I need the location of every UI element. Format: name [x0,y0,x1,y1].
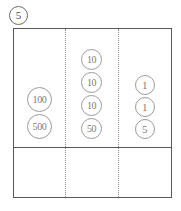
coin-column-hundreds: 100 500 [14,29,65,147]
coin[interactable]: 10 [81,49,102,70]
coin-column-ones: 1 1 5 [118,29,171,147]
coin[interactable]: 1 [135,97,155,117]
problem-number-badge: 5 [9,6,28,25]
coin[interactable]: 10 [81,95,102,116]
money-place-value-box: 100 500 10 10 10 50 1 1 5 [13,28,172,198]
coin[interactable]: 1 [135,75,155,95]
coin-value: 500 [33,122,47,132]
coin[interactable]: 100 [27,87,52,112]
problem-number-label: 5 [16,10,22,21]
coin-value: 1 [142,102,147,113]
coin-value: 5 [142,124,147,135]
coin-value: 10 [87,101,96,111]
coin[interactable]: 50 [81,118,102,139]
coin-value: 10 [87,55,96,65]
coin-value: 100 [33,95,47,105]
coin-value: 50 [87,124,96,134]
coin[interactable]: 10 [81,72,102,93]
coin-column-tens: 10 10 10 50 [65,29,118,147]
coin[interactable]: 5 [135,119,155,139]
coin-value: 1 [142,80,147,91]
coin-value: 10 [87,78,96,88]
coin[interactable]: 500 [27,114,52,139]
answer-area[interactable] [14,147,171,197]
